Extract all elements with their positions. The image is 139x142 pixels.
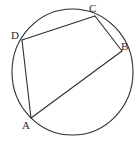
segment-da: [22, 40, 31, 118]
segment-dc: [22, 16, 95, 40]
vertex-label-a: A: [22, 120, 30, 131]
vertex-label-d: D: [11, 30, 19, 41]
geometry-figure: D C B A: [0, 0, 139, 142]
segment-ab-diagonal: [31, 51, 122, 118]
circumscribed-circle: [12, 9, 133, 135]
vertex-label-c: C: [89, 3, 96, 14]
geometry-canvas: [0, 0, 139, 142]
vertex-label-b: B: [121, 41, 128, 52]
